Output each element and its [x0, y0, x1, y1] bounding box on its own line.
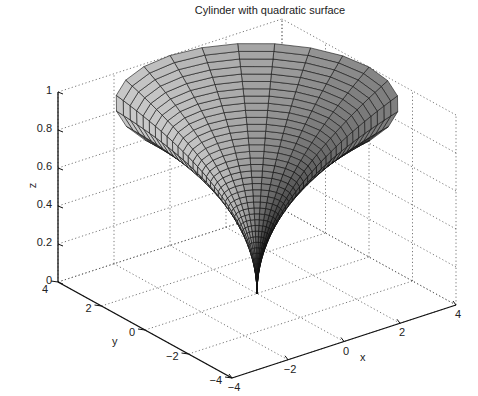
x-axis-label: x: [360, 352, 366, 363]
z-tick-label: 0.2: [37, 237, 52, 248]
x-tick-label: −2: [284, 364, 297, 375]
x-tick-label: 0: [343, 346, 349, 357]
plot-area: [0, 0, 478, 396]
y-tick-label: −4: [209, 375, 222, 386]
z-tick-label: 0.4: [37, 199, 52, 210]
y-tick-label: 0: [129, 327, 135, 338]
y-tick-label: 4: [42, 284, 48, 295]
y-tick-label: 2: [85, 303, 91, 314]
z-tick-label: 1: [46, 85, 52, 96]
z-tick-label: 0.8: [37, 123, 52, 134]
y-axis-label: y: [112, 336, 118, 347]
x-tick-label: 2: [399, 327, 405, 338]
x-tick-label: −4: [228, 382, 241, 393]
z-tick-label: 0.6: [37, 161, 52, 172]
y-tick-label: −2: [166, 351, 179, 362]
funnel-surface: [116, 44, 397, 294]
x-tick-label: 4: [455, 309, 461, 320]
z-axis-label: z: [27, 183, 38, 189]
